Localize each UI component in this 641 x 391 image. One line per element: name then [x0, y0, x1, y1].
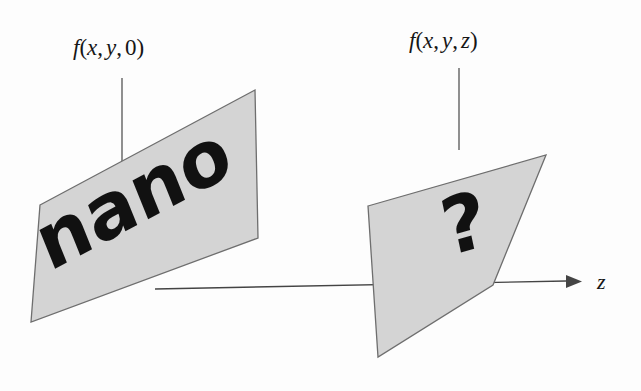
right-plane-label: f(x,y,z) — [409, 28, 478, 53]
z-axis-arrowhead — [566, 275, 582, 288]
z-axis-line — [155, 281, 566, 289]
right-plane-group: ? — [368, 155, 546, 357]
svg-text:f(x,y,z): f(x,y,z) — [409, 28, 478, 53]
left-label-arg-x: x — [86, 35, 98, 60]
right-label-arg-y: y — [440, 28, 453, 53]
right-label-comma-1: , — [433, 28, 439, 53]
right-label-arg-z: z — [460, 28, 470, 53]
left-label-comma-1: , — [97, 35, 103, 60]
right-label-open-paren: ( — [415, 28, 423, 53]
left-label-open-paren: ( — [79, 35, 87, 60]
right-label-comma-2: , — [452, 28, 458, 53]
right-label-arg-x: x — [422, 28, 434, 53]
left-plane-label: f(x,y,0) — [73, 35, 144, 60]
left-label-arg-y: y — [104, 35, 117, 60]
left-label-comma-2: , — [116, 35, 122, 60]
left-label-close-paren: ) — [137, 35, 145, 60]
z-axis-label: z — [596, 269, 606, 294]
diagram-svg: z nano ? f(x,y,0) f — [0, 0, 641, 391]
svg-text:f(x,y,0): f(x,y,0) — [73, 35, 144, 60]
right-label-close-paren: ) — [470, 28, 478, 53]
left-label-arg-z: 0 — [125, 35, 137, 60]
diagram-canvas: z nano ? f(x,y,0) f — [0, 0, 641, 391]
